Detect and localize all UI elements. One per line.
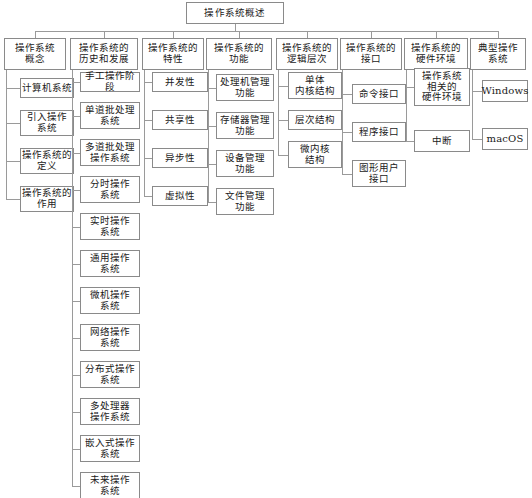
leaf-stub (6, 123, 20, 124)
branch-node-7[interactable]: 典型操作 系统 (470, 38, 526, 70)
leaf-stub (72, 82, 80, 83)
leaf-stub (278, 155, 288, 156)
branch-stem (371, 31, 372, 38)
branch-spine (208, 70, 209, 202)
leaf-node-7-1[interactable]: macOS (482, 128, 528, 150)
leaf-stub (6, 161, 20, 162)
leaf-stub (72, 449, 80, 450)
leaf-node-1-10[interactable]: 嵌入式操作 系统 (80, 435, 140, 462)
branch-stem (498, 31, 499, 38)
branch-stem (239, 31, 240, 38)
branch-stem (307, 31, 308, 38)
leaf-stub (72, 375, 80, 376)
leaf-node-0-3[interactable]: 操作系统的 作用 (20, 186, 74, 212)
leaf-stub (72, 153, 80, 154)
leaf-stub (472, 91, 482, 92)
branch-node-5[interactable]: 操作系统的 接口 (340, 38, 402, 70)
leaf-node-5-2[interactable]: 图形用户 接口 (352, 160, 406, 187)
leaf-stub (144, 158, 152, 159)
branch-spine (6, 70, 7, 199)
leaf-node-4-0[interactable]: 单体 内核结构 (288, 72, 342, 99)
leaf-node-4-1[interactable]: 层次结构 (288, 110, 342, 130)
leaf-stub (144, 82, 152, 83)
leaf-node-2-3[interactable]: 虚拟性 (152, 186, 208, 206)
leaf-stub (144, 196, 152, 197)
leaf-stub (208, 126, 216, 127)
root-node[interactable]: 操作系统概述 (186, 2, 284, 24)
branch-spine (72, 70, 73, 486)
branch-node-4[interactable]: 操作系统的 逻辑层次 (276, 38, 338, 70)
leaf-node-1-8[interactable]: 分布式操作 系统 (80, 361, 140, 388)
branch-node-0[interactable]: 操作系统 概念 (4, 38, 66, 70)
leaf-node-1-11[interactable]: 未来操作 系统 (80, 472, 140, 498)
branch-spine (406, 70, 407, 141)
leaf-stub (72, 412, 80, 413)
leaf-node-6-1[interactable]: 中断 (414, 130, 470, 152)
branch-node-6[interactable]: 操作系统的 硬件环境 (404, 38, 468, 70)
branch-stem (436, 31, 437, 38)
branch-spine (278, 70, 279, 155)
leaf-stub (342, 174, 352, 175)
leaf-node-5-1[interactable]: 程序接口 (352, 122, 406, 142)
leaf-node-3-0[interactable]: 处理机管理 功能 (216, 74, 274, 101)
diagram-canvas: 操作系统概述操作系统 概念计算机系统引入操作 系统操作系统的 定义操作系统的 作… (0, 0, 532, 498)
leaf-node-1-1[interactable]: 单道批处理 系统 (80, 102, 140, 129)
leaf-stub (342, 132, 352, 133)
leaf-stub (278, 120, 288, 121)
branch-spine (342, 70, 343, 174)
leaf-node-1-6[interactable]: 微机操作 系统 (80, 287, 140, 314)
branch-stem (104, 31, 105, 38)
leaf-node-0-2[interactable]: 操作系统的 定义 (20, 148, 74, 174)
branch-node-1[interactable]: 操作系统的 历史和发展 (70, 38, 138, 70)
root-stem (235, 24, 236, 31)
leaf-node-1-5[interactable]: 通用操作 系统 (80, 250, 140, 277)
leaf-stub (208, 88, 216, 89)
leaf-stub (406, 141, 414, 142)
leaf-node-5-0[interactable]: 命令接口 (352, 84, 406, 104)
leaf-node-1-0[interactable]: 手工操作阶段 (80, 72, 140, 92)
leaf-stub (208, 164, 216, 165)
leaf-stub (278, 86, 288, 87)
leaf-node-1-3[interactable]: 分时操作 系统 (80, 176, 140, 203)
leaf-node-2-0[interactable]: 并发性 (152, 72, 208, 92)
leaf-stub (72, 190, 80, 191)
leaf-stub (342, 94, 352, 95)
leaf-stub (72, 227, 80, 228)
branch-node-2[interactable]: 操作系统的 特性 (142, 38, 204, 70)
leaf-node-0-0[interactable]: 计算机系统 (20, 78, 74, 98)
leaf-node-7-0[interactable]: Windows (482, 80, 528, 102)
leaf-stub (208, 202, 216, 203)
branch-node-3[interactable]: 操作系统的 功能 (206, 38, 272, 70)
branch-stem (35, 31, 36, 38)
leaf-node-6-0[interactable]: 操作系统 相关的 硬件环境 (414, 68, 470, 106)
leaf-node-3-1[interactable]: 存储器管理 功能 (216, 112, 274, 139)
leaf-stub (6, 88, 20, 89)
leaf-node-2-1[interactable]: 共享性 (152, 110, 208, 130)
leaf-node-2-2[interactable]: 异步性 (152, 148, 208, 168)
leaf-stub (72, 486, 80, 487)
leaf-stub (72, 264, 80, 265)
leaf-node-1-7[interactable]: 网络操作 系统 (80, 324, 140, 351)
branch-spine (144, 70, 145, 196)
leaf-stub (144, 120, 152, 121)
leaf-stub (72, 301, 80, 302)
leaf-node-3-2[interactable]: 设备管理 功能 (216, 150, 274, 177)
leaf-stub (6, 199, 20, 200)
leaf-node-3-3[interactable]: 文件管理 功能 (216, 188, 274, 215)
leaf-stub (72, 116, 80, 117)
leaf-stub (72, 338, 80, 339)
leaf-stub (406, 87, 414, 88)
leaf-stub (472, 139, 482, 140)
branch-spine (472, 70, 473, 139)
leaf-node-1-4[interactable]: 实时操作 系统 (80, 213, 140, 240)
leaf-node-1-9[interactable]: 多处理器 操作系统 (80, 398, 140, 425)
leaf-node-0-1[interactable]: 引入操作 系统 (20, 110, 74, 136)
leaf-node-4-2[interactable]: 微内核 结构 (288, 141, 342, 168)
leaf-node-1-2[interactable]: 多道批处理 操作系统 (80, 139, 140, 166)
branch-stem (173, 31, 174, 38)
